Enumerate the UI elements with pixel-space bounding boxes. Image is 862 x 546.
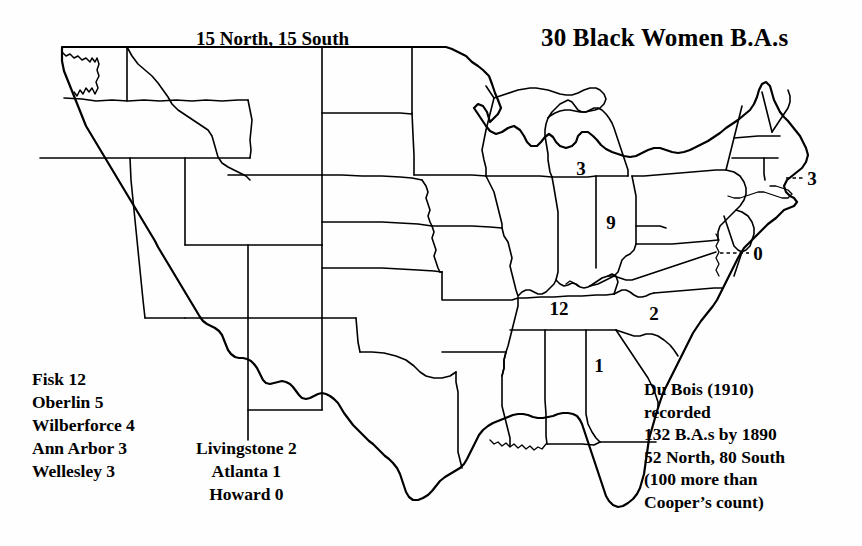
puget-sound-detail <box>62 52 99 96</box>
border-ar-ms <box>502 298 518 446</box>
border-in-il-ky-ohio-river <box>556 280 590 288</box>
institution-howard: Howard 0 <box>196 483 297 506</box>
border-il-ky-west <box>518 280 556 296</box>
dubois-note: Du Bois (1910) recorded 132 B.A.s by 189… <box>644 378 785 513</box>
border-pa-md <box>636 240 718 244</box>
border-vt-nh <box>762 92 772 132</box>
border-tx-la <box>456 372 462 468</box>
map-count-ohio: 9 <box>606 213 616 232</box>
border-sd-ne <box>322 175 422 180</box>
dubois-note-line-3: 132 B.A.s by 1890 <box>644 423 785 446</box>
border-tn-va-nc <box>614 290 654 297</box>
figure-canvas: 30 Black Women B.A.s 15 North, 15 South … <box>0 0 862 546</box>
border-mn-ia <box>414 175 486 176</box>
callout-count-washington-dc: 0 <box>753 244 763 263</box>
dubois-note-line-1: Du Bois (1910) <box>644 378 785 401</box>
institution-fisk: Fisk 12 <box>32 368 135 391</box>
border-al-fl-panhandle <box>547 442 600 445</box>
dubois-note-line-4: 52 North, 80 South <box>644 446 785 469</box>
border-ma-north <box>734 136 780 138</box>
border-ms-al <box>545 330 547 444</box>
border-mi-upper-peninsula <box>494 88 606 118</box>
border-al-ga <box>586 330 600 442</box>
border-ia-il <box>486 176 502 228</box>
border-ok-tx-panhandle-east <box>356 318 360 352</box>
border-la-gulf-detail <box>490 440 546 450</box>
map-count-georgia: 1 <box>594 356 604 375</box>
border-ct-ri <box>764 158 765 180</box>
border-va-wv <box>590 252 716 286</box>
border-or-id <box>248 100 252 158</box>
institution-list-left: Fisk 12 Oberlin 5 Wilberforce 4 Ann Arbo… <box>32 368 135 483</box>
border-ia-mo <box>432 226 502 228</box>
border-il-in-mi-north <box>552 176 628 177</box>
border-ne-ks <box>322 222 432 226</box>
border-oh-pa <box>632 176 636 244</box>
page-title: 30 Black Women B.A.s <box>541 24 788 52</box>
border-wi-il <box>486 176 552 177</box>
border-mo-ar <box>442 272 518 300</box>
institution-list-middle: Livingstone 2 Atlanta 1 Howard 0 <box>196 437 297 506</box>
callout-count-massachusetts: 3 <box>807 169 817 188</box>
border-ms-la <box>502 352 506 376</box>
institution-wellesley: Wellesley 3 <box>32 460 135 483</box>
border-il-in <box>552 177 558 280</box>
dubois-note-line-6: Cooper’s count) <box>644 491 785 514</box>
border-id-mt <box>127 47 250 180</box>
border-ok-tx-red-river <box>360 352 456 378</box>
border-ks-ok <box>322 268 442 272</box>
border-nh-me <box>772 90 790 132</box>
institution-livingstone: Livingstone 2 <box>196 437 297 460</box>
border-nj <box>724 210 754 252</box>
institution-wilberforce: Wilberforce 4 <box>32 414 135 437</box>
map-count-north-carolina: 2 <box>649 304 659 323</box>
border-nv-ut <box>130 158 145 318</box>
border-sd-mn-ia <box>412 113 414 175</box>
north-south-subtitle: 15 North, 15 South <box>196 28 349 50</box>
border-va-nc <box>654 288 722 293</box>
border-wa-or <box>64 98 248 101</box>
dubois-note-line-5: (100 more than <box>644 468 785 491</box>
map-count-tennessee: 12 <box>550 299 569 318</box>
institution-ann-arbor: Ann Arbor 3 <box>32 437 135 460</box>
institution-atlanta: Atlanta 1 <box>196 460 297 483</box>
institution-oberlin: Oberlin 5 <box>32 391 135 414</box>
map-count-michigan: 3 <box>576 159 586 178</box>
border-mi-west-shore <box>545 118 552 177</box>
cape-cod-detail <box>728 186 792 198</box>
border-nd-sd <box>322 113 412 114</box>
border-wv-pa <box>636 226 666 228</box>
dubois-note-line-2: recorded <box>644 401 785 424</box>
border-mo-il <box>502 228 518 296</box>
